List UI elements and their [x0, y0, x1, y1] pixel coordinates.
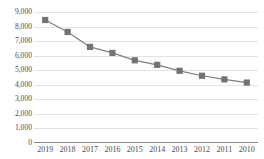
plot-area: 01,0002,0003,0004,0005,0006,0007,0008,00… — [34, 12, 258, 143]
y-axis-tick-label: 3,000 — [2, 96, 32, 104]
y-axis-tick-label: 7,000 — [2, 37, 32, 45]
data-point-marker — [199, 73, 205, 79]
x-axis-tick-label: 2016 — [104, 146, 120, 154]
x-axis-tick-labels: 2019201820172016201520142013201220112010 — [34, 144, 258, 158]
x-axis-tick-label: 2017 — [82, 146, 98, 154]
x-axis-tick-label: 2012 — [194, 146, 210, 154]
data-point-marker — [42, 17, 48, 23]
x-axis-tick-label: 2019 — [37, 146, 53, 154]
y-axis-tick-label: 1,000 — [2, 125, 32, 133]
data-point-marker — [177, 68, 183, 74]
data-point-marker — [221, 76, 227, 82]
x-axis-tick-label: 2010 — [239, 146, 255, 154]
x-axis-tick-label: 2018 — [60, 146, 76, 154]
x-axis-tick-label: 2013 — [172, 146, 188, 154]
data-point-marker — [65, 29, 71, 35]
line-chart: 01,0002,0003,0004,0005,0006,0007,0008,00… — [0, 0, 264, 159]
data-point-marker — [87, 44, 93, 50]
data-point-marker — [244, 79, 250, 85]
series-line-group — [34, 12, 258, 143]
y-axis-tick-label: 2,000 — [2, 110, 32, 118]
chart-title — [0, 0, 264, 4]
y-axis-tick-label: 6,000 — [2, 52, 32, 60]
y-axis-tick-label: 9,000 — [2, 8, 32, 16]
x-axis-tick-label: 2015 — [127, 146, 143, 154]
y-axis-tick-label: 8,000 — [2, 23, 32, 31]
y-axis-tick-label: 4,000 — [2, 81, 32, 89]
x-axis-tick-label: 2014 — [149, 146, 165, 154]
data-point-marker — [132, 57, 138, 63]
data-point-marker — [109, 50, 115, 56]
y-axis-tick-label: 0 — [2, 139, 32, 147]
data-point-marker — [154, 62, 160, 68]
x-axis-tick-label: 2011 — [217, 146, 233, 154]
y-axis-tick-label: 5,000 — [2, 66, 32, 74]
series-line — [45, 20, 247, 83]
